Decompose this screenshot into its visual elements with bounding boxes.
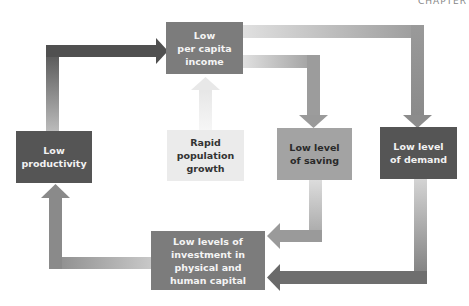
arrow-productivity-to-income [46,38,168,131]
node-low-investment: Low levels of investment in physical and… [151,231,265,290]
node-label: Low per capita income [177,29,231,68]
node-label: Low productivity [21,144,86,170]
node-label: Low levels of investment in physical and… [170,235,246,287]
node-label: Low level of saving [289,141,339,167]
arrow-income-to-saving [243,55,328,128]
node-label: Rapid population growth [177,136,235,175]
node-low-per-capita-income: Low per capita income [166,22,243,74]
arrow-population-to-income [191,77,220,130]
node-low-productivity: Low productivity [16,131,92,183]
arrow-income-to-demand [243,25,432,128]
node-low-level-of-saving: Low level of saving [277,128,352,180]
node-rapid-population-growth: Rapid population growth [167,130,244,181]
node-low-level-of-demand: Low level of demand [380,127,457,179]
node-label: Low level of demand [390,140,447,166]
arrow-saving-to-investment [267,180,322,249]
arrow-investment-to-productivity [41,184,151,269]
